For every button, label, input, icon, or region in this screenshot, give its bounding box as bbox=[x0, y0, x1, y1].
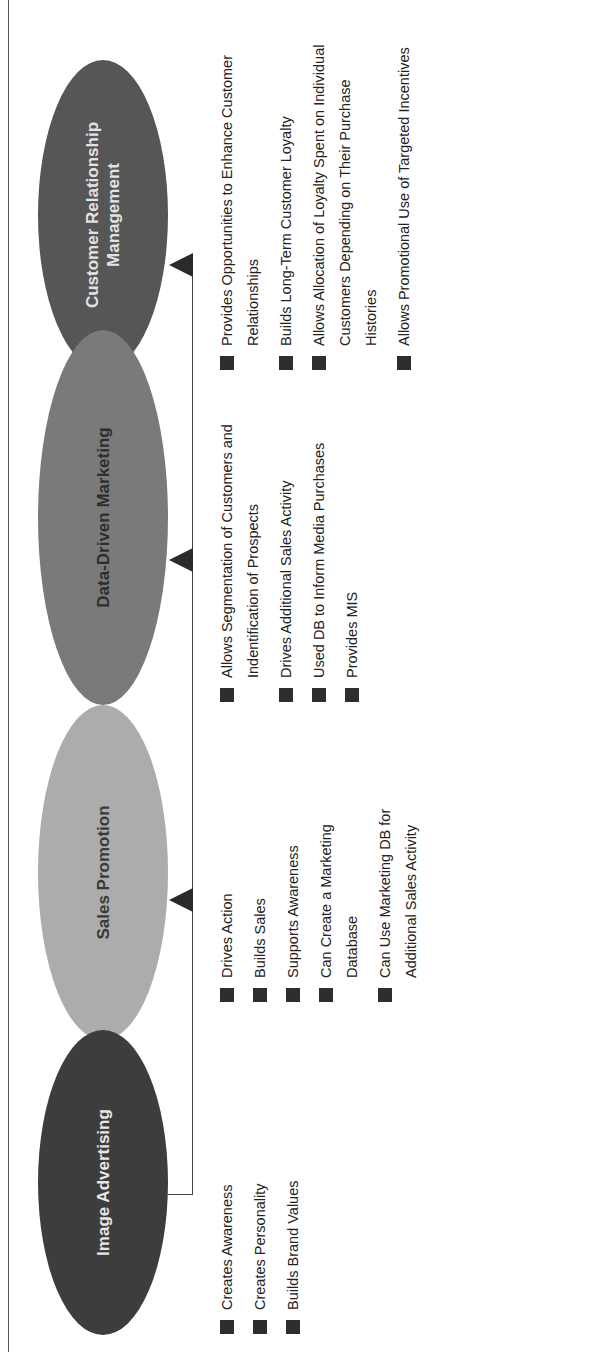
stage-label: Customer Relationship Management bbox=[82, 100, 124, 330]
square-bullet-icon bbox=[220, 688, 234, 702]
stage-label: Image Advertising bbox=[93, 1109, 114, 1256]
list-item: Used DB to Inform Media Purchases bbox=[306, 417, 332, 702]
arrow-up-icon bbox=[169, 253, 193, 277]
bullets-customer-relationship-management: Provides Opportunities to Enhance Custom… bbox=[214, 40, 424, 370]
list-item: Can Use Marketing DB for Additional Sale… bbox=[372, 762, 424, 1002]
square-bullet-icon bbox=[279, 688, 293, 702]
progression-line bbox=[192, 265, 193, 1195]
square-bullet-icon bbox=[253, 988, 267, 1002]
square-bullet-icon bbox=[378, 988, 392, 1002]
square-bullet-icon bbox=[220, 988, 234, 1002]
bullets-data-driven-marketing: Allows Segmentation of Customers and Ind… bbox=[214, 417, 372, 702]
stage-label: Sales Promotion bbox=[93, 805, 114, 939]
list-item: Allows Promotional Use of Targeted Incen… bbox=[391, 40, 417, 370]
square-bullet-icon bbox=[312, 688, 326, 702]
list-item: Drives Action bbox=[214, 762, 240, 1002]
list-item: Can Create a Marketing Database bbox=[313, 762, 365, 1002]
progression-start-tick bbox=[168, 1194, 192, 1195]
square-bullet-icon bbox=[220, 1320, 234, 1334]
list-item: Allows Allocation of Loyalty Spent on In… bbox=[306, 40, 384, 370]
frame-top-rule bbox=[8, 0, 9, 1352]
stage-sales-promotion: Sales Promotion bbox=[38, 705, 168, 1040]
stage-image-advertising: Image Advertising bbox=[38, 1030, 168, 1335]
list-item: Provides MIS bbox=[339, 417, 365, 702]
list-item: Allows Segmentation of Customers and Ind… bbox=[214, 417, 266, 702]
arrow-up-icon bbox=[169, 888, 193, 912]
square-bullet-icon bbox=[286, 1320, 300, 1334]
list-item: Provides Opportunities to Enhance Custom… bbox=[214, 40, 266, 370]
arrow-up-icon bbox=[169, 548, 193, 572]
diagram-canvas: Image Advertising Sales Promotion Data-D… bbox=[0, 0, 612, 1352]
square-bullet-icon bbox=[286, 988, 300, 1002]
list-item: Builds Sales bbox=[247, 762, 273, 1002]
list-item: Supports Awareness bbox=[280, 762, 306, 1002]
list-item: Creates Awareness bbox=[214, 1134, 240, 1334]
bullets-image-advertising: Creates Awareness Creates Personality Bu… bbox=[214, 1134, 313, 1334]
bullets-sales-promotion: Drives Action Builds Sales Supports Awar… bbox=[214, 762, 431, 1002]
list-item: Creates Personality bbox=[247, 1134, 273, 1334]
stage-customer-relationship-management: Customer Relationship Management bbox=[38, 60, 168, 370]
square-bullet-icon bbox=[319, 988, 333, 1002]
square-bullet-icon bbox=[220, 356, 234, 370]
list-item: Builds Brand Values bbox=[280, 1134, 306, 1334]
square-bullet-icon bbox=[312, 356, 326, 370]
stage-data-driven-marketing: Data-Driven Marketing bbox=[38, 330, 168, 705]
square-bullet-icon bbox=[397, 356, 411, 370]
square-bullet-icon bbox=[279, 356, 293, 370]
square-bullet-icon bbox=[345, 688, 359, 702]
list-item: Drives Additional Sales Activity bbox=[273, 417, 299, 702]
stage-label: Data-Driven Marketing bbox=[93, 427, 114, 607]
square-bullet-icon bbox=[253, 1320, 267, 1334]
list-item: Builds Long-Term Customer Loyalty bbox=[273, 40, 299, 370]
